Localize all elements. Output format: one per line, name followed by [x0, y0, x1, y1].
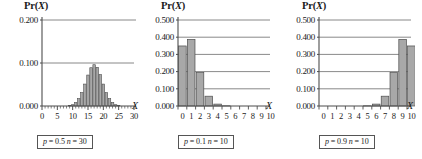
x-tick-label: 5 — [55, 112, 59, 121]
bar — [408, 46, 415, 106]
y-tick-label: 0.200 — [296, 67, 315, 76]
bar — [99, 75, 102, 106]
x-tick-label: 7 — [383, 112, 387, 121]
x-axis-ticks — [42, 106, 134, 110]
x-tick-label: 4 — [357, 112, 361, 121]
panel-2-title-close: ) — [182, 0, 185, 11]
caption-n-value: = 30 — [71, 137, 87, 146]
chart-panel-3: Pr(X) 0.500 0.400 0.300 0.200 0.100 0.00… — [282, 0, 422, 159]
y-tick-label: 0.300 — [296, 50, 315, 59]
gridlines — [42, 20, 136, 63]
x-tick-label: 9 — [401, 112, 405, 121]
x-tick-label: 0 — [40, 112, 44, 121]
panel-3-y-axis-labels: 0.500 0.400 0.300 0.200 0.100 0.000 — [282, 0, 315, 159]
panel-1-svg — [40, 12, 136, 118]
y-tick-label: 0.200 — [155, 67, 174, 76]
x-tick-label: 10 — [69, 112, 77, 121]
panel-3-title-close: ) — [323, 0, 326, 11]
y-tick-label: 0.100 — [19, 59, 38, 68]
x-tick-label: 1 — [189, 112, 193, 121]
chart-panel-2: Pr(X) 0.500 0.400 0.300 0.200 0.100 0.00… — [141, 0, 282, 159]
y-tick-label: 0.100 — [296, 85, 315, 94]
caption-n-value: = 10 — [353, 137, 369, 146]
bar — [81, 93, 84, 106]
x-tick-label: 4 — [216, 112, 220, 121]
bar — [78, 99, 81, 106]
panel-3-caption: p = 0.9 n = 10 — [319, 135, 375, 149]
y-tick-label: 0.500 — [155, 16, 174, 25]
panel-2-title-var: X — [175, 0, 182, 11]
panel-2-plot-area: X 012345678910 — [176, 12, 274, 118]
caption-p-value: = 0.5 — [47, 137, 67, 146]
panel-1-caption: p = 0.5 n = 30 — [37, 135, 93, 149]
y-tick-label: 0.500 — [296, 16, 315, 25]
y-tick-label: 0.400 — [296, 33, 315, 42]
x-tick-label: 9 — [260, 112, 264, 121]
bar — [390, 73, 398, 106]
x-tick-label: 8 — [392, 112, 396, 121]
bar — [102, 84, 105, 106]
panel-1-title-close: ) — [45, 0, 48, 11]
y-tick-label: 0.200 — [19, 16, 38, 25]
x-tick-label: 5 — [224, 112, 228, 121]
bar — [84, 84, 87, 106]
y-tick-label: 0.000 — [155, 102, 174, 111]
x-tick-label: 15 — [84, 112, 92, 121]
x-tick-label: 20 — [99, 112, 107, 121]
panel-2-caption: p = 0.1 n = 10 — [178, 135, 234, 149]
bar — [381, 96, 389, 106]
panel-3-plot-area: X 012345678910 — [317, 12, 415, 118]
x-tick-label: 5 — [365, 112, 369, 121]
panel-1-x-axis-name: X — [132, 100, 138, 111]
bar — [90, 68, 93, 106]
bar — [96, 67, 99, 106]
panel-2-y-axis-labels: 0.500 0.400 0.300 0.200 0.100 0.000 — [141, 0, 174, 159]
caption-p-value: = 0.1 — [188, 137, 208, 146]
y-tick-label: 0.100 — [155, 85, 174, 94]
panel-2-svg — [176, 12, 274, 118]
x-tick-label: 6 — [374, 112, 378, 121]
y-tick-label: 0.400 — [155, 33, 174, 42]
x-tick-label: 25 — [115, 112, 123, 121]
x-tick-label: 30 — [130, 112, 138, 121]
x-tick-label: 8 — [251, 112, 255, 121]
bars-group — [364, 39, 415, 106]
x-tick-label: 3 — [207, 112, 211, 121]
x-tick-label: 3 — [348, 112, 352, 121]
bar — [399, 39, 407, 106]
caption-n-value: = 10 — [212, 137, 228, 146]
bars-group — [68, 65, 120, 106]
panel-2-x-axis-name: X — [266, 100, 272, 111]
panel-1-plot-area: X 051015202530 — [40, 12, 136, 118]
bar — [196, 73, 204, 106]
bars-group — [179, 39, 231, 106]
panel-3-x-axis-name: X — [407, 100, 413, 111]
panel-1-title-var: X — [38, 0, 45, 11]
y-tick-label: 0.300 — [155, 50, 174, 59]
x-tick-label: 2 — [339, 112, 343, 121]
caption-p-value: = 0.9 — [329, 137, 349, 146]
panel-1-y-axis-labels: 0.200 0.100 0.000 — [0, 0, 38, 159]
binomial-distribution-figure: Pr(X) 0.200 0.100 0.000 — [0, 0, 422, 159]
y-tick-label: 0.000 — [296, 102, 315, 111]
x-tick-label: 6 — [233, 112, 237, 121]
x-tick-label: 0 — [321, 112, 325, 121]
bar — [187, 39, 195, 106]
x-tick-label: 10 — [407, 112, 415, 121]
x-tick-label: 0 — [180, 112, 184, 121]
bar — [87, 75, 90, 106]
x-tick-label: 2 — [198, 112, 202, 121]
chart-panel-1: Pr(X) 0.200 0.100 0.000 — [0, 0, 141, 159]
x-tick-label: 1 — [330, 112, 334, 121]
panel-3-svg — [317, 12, 415, 118]
bar — [179, 46, 187, 106]
panel-3-title-var: X — [316, 0, 323, 11]
y-tick-label: 0.000 — [19, 102, 38, 111]
bar — [205, 96, 213, 106]
bar — [105, 93, 108, 106]
bar — [108, 99, 111, 106]
x-tick-label: 10 — [266, 112, 274, 121]
bar — [93, 65, 96, 106]
x-tick-label: 7 — [242, 112, 246, 121]
